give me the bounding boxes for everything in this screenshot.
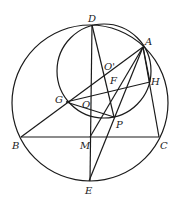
label-G: G — [55, 95, 63, 105]
label-M: M — [80, 141, 90, 151]
geometry-diagram: D A O' F H G O P B M C E — [0, 0, 180, 202]
label-B: B — [12, 141, 19, 151]
label-E: E — [85, 186, 92, 196]
label-H: H — [151, 77, 160, 87]
label-C: C — [160, 141, 168, 151]
segment-DM — [90, 25, 92, 181]
label-P: P — [116, 120, 123, 130]
label-D: D — [88, 14, 96, 24]
label-F: F — [110, 76, 117, 86]
label-A: A — [145, 37, 152, 47]
label-O: O — [82, 100, 90, 110]
label-O-prime: O' — [104, 62, 115, 72]
